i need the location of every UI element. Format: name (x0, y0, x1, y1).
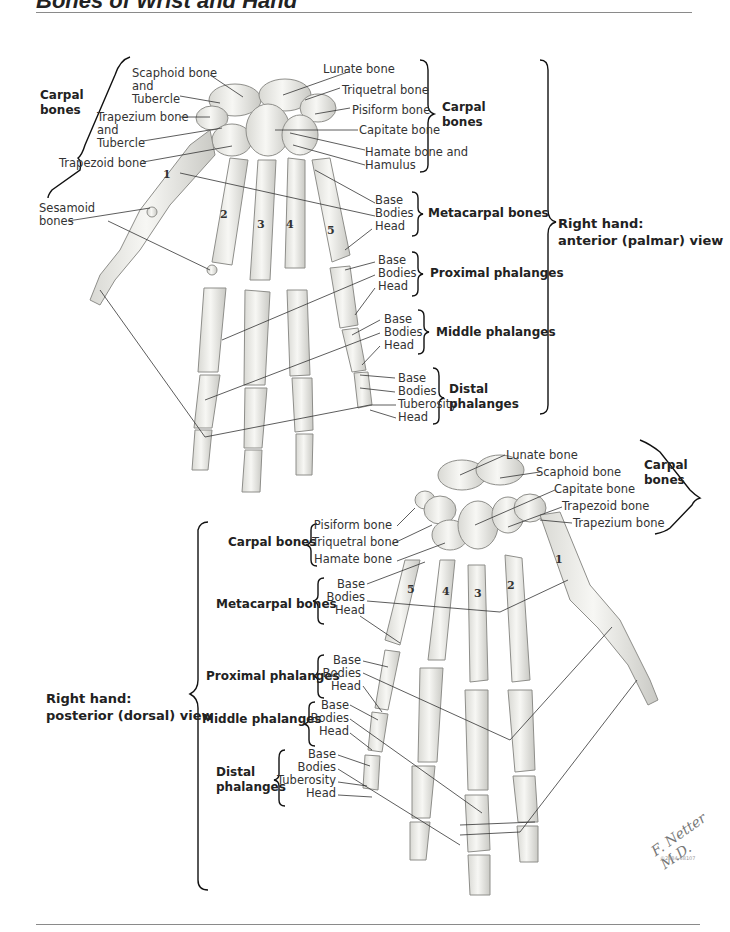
label-line: bones (39, 215, 95, 228)
posterior-digit-4: 4 (442, 585, 450, 598)
posterior-middle-labels: Base Bodies Head (303, 699, 349, 738)
anterior-proximal-labels: Base Bodies Head (378, 254, 417, 293)
anterior-metacarpal-group: Metacarpal bones (428, 206, 549, 221)
label-head: Head (384, 339, 423, 352)
anterior-metacarpal-labels: Base Bodies Head (375, 194, 414, 233)
view-line: posterior (dorsal) view (46, 707, 214, 724)
anterior-middle-labels: Base Bodies Head (384, 313, 423, 352)
anterior-right-carpal-group: Carpal bones (442, 100, 486, 130)
label-lunate: Lunate bone (323, 63, 395, 76)
label-post-trapezium: Trapezium bone (573, 517, 665, 530)
posterior-digit-5: 5 (407, 583, 415, 596)
label-trapezoid: Trapezoid bone (59, 157, 146, 170)
label-triquetral: Triquetral bone (312, 536, 392, 549)
anterior-middle-group: Middle phalanges (436, 325, 556, 340)
label-sesamoid: Sesamoid bones (39, 202, 95, 228)
posterior-metacarpal-group: Metacarpal bones (216, 597, 337, 612)
label-post-trapezoid: Trapezoid bone (562, 500, 649, 513)
label-hamate: Hamate bone and Hamulus (365, 146, 468, 172)
label-head: Head (378, 280, 417, 293)
label-head: Head (320, 604, 365, 617)
posterior-digit-2: 2 (507, 579, 515, 592)
posterior-view-title: Right hand: posterior (dorsal) view (46, 690, 214, 724)
anterior-view-title: Right hand: anterior (palmar) view (558, 215, 723, 249)
posterior-carpal-labels: Pisiform bone Triquetral bone Hamate bon… (312, 519, 392, 566)
label-scaphoid: Scaphoid bone and Tubercle (132, 67, 217, 106)
artist-code: ©2384-58107 (660, 855, 695, 861)
anterior-digit-5: 5 (327, 224, 335, 237)
label-post-lunate: Lunate bone (506, 449, 578, 462)
label-pisiform: Pisiform bone (312, 519, 392, 532)
anterior-proximal-group: Proximal phalanges (430, 266, 564, 281)
label-post-capitate: Capitate bone (554, 483, 635, 496)
anterior-digit-4: 4 (286, 218, 294, 231)
group-line: Carpal (644, 458, 688, 473)
view-line: Right hand: (558, 215, 723, 232)
posterior-top-carpal-group: Carpal bones (644, 458, 688, 488)
group-line: bones (40, 103, 84, 118)
label-head: Head (398, 411, 457, 424)
label-capitate: Capitate bone (359, 124, 440, 137)
anterior-distal-group: Distal phalanges (449, 382, 519, 412)
posterior-metacarpal-labels: Base Bodies Head (320, 578, 365, 617)
anterior-digit-1: 1 (163, 168, 171, 181)
group-line: phalanges (449, 397, 519, 412)
group-line: Distal (449, 382, 519, 397)
view-line: Right hand: (46, 690, 214, 707)
posterior-carpal-group: Carpal bones (228, 535, 316, 550)
label-head: Head (375, 220, 414, 233)
label-pisiform: Pisiform bone (352, 104, 430, 117)
label-head: Head (276, 787, 336, 800)
label-post-scaphoid: Scaphoid bone (536, 466, 621, 479)
label-head: Head (316, 680, 361, 693)
anterior-left-carpal-group: Carpal bones (40, 88, 84, 118)
group-line: bones (644, 473, 688, 488)
label-line: Tubercle (97, 137, 189, 150)
label-line: Tubercle (132, 93, 217, 106)
label-trapezium: Trapezium bone and Tubercle (97, 111, 189, 150)
view-line: anterior (palmar) view (558, 232, 723, 249)
label-triquetral: Triquetral bone (342, 84, 429, 97)
posterior-proximal-labels: Base Bodies Head (316, 654, 361, 693)
label-line: Hamulus (365, 159, 468, 172)
label-hamate: Hamate bone (312, 553, 392, 566)
label-head: Head (303, 725, 349, 738)
posterior-digit-1: 1 (555, 553, 563, 566)
anterior-digit-2: 2 (220, 208, 228, 221)
posterior-digit-3: 3 (474, 587, 482, 600)
group-line: bones (442, 115, 486, 130)
group-line: Carpal (40, 88, 84, 103)
posterior-distal-labels: Base Bodies Tuberosity Head (276, 748, 336, 800)
group-line: Carpal (442, 100, 486, 115)
anterior-digit-3: 3 (257, 218, 265, 231)
